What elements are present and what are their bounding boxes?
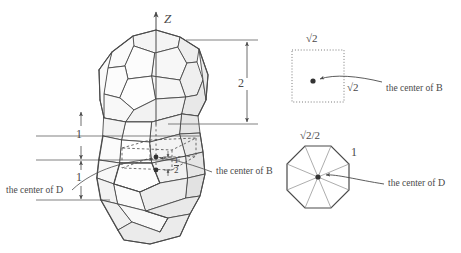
inset-square-right-label: √2	[347, 82, 359, 93]
caption-mid-center-b: the center of B	[216, 166, 273, 177]
diagram-canvas: Z 2 1 1 1 2 the center of D the center o…	[0, 0, 461, 253]
octagon-edge-label: 1	[351, 146, 357, 158]
caption-inset-center-b-symbol: B	[436, 82, 443, 93]
octagon-center-dot	[315, 174, 320, 179]
caption-inset-center-d: the center of D	[388, 178, 445, 189]
dimension-label-left-lower: 1	[76, 171, 82, 183]
caption-left-center-d-text: the center of	[6, 185, 56, 195]
dimension-label-left-upper: 1	[76, 128, 82, 140]
caption-left-center-d: the center of D	[6, 185, 63, 196]
caption-inset-center-b: the center of B	[386, 83, 443, 94]
inset-square-top-label: √2	[306, 33, 318, 44]
caption-inset-center-d-text: the center of	[388, 178, 438, 188]
main-polyhedron	[97, 30, 208, 244]
dimension-label-half: 1 2	[174, 156, 179, 176]
polyhedron-upper-half	[99, 30, 208, 122]
polyhedron-lower-half	[97, 133, 205, 244]
inset-octagon	[287, 146, 384, 208]
center-dot-b	[154, 155, 159, 160]
inset-dotted-square	[292, 50, 382, 102]
half-numerator: 1	[174, 156, 179, 165]
caption-inset-center-d-symbol: D	[438, 177, 446, 188]
half-denominator: 2	[174, 165, 179, 175]
caption-mid-center-b-symbol: B	[266, 165, 273, 176]
dimension-label-right-2: 2	[238, 77, 244, 89]
z-axis-label: Z	[164, 12, 171, 25]
inset-square-center-dot	[310, 78, 315, 83]
diagram-vector-layer	[0, 0, 461, 253]
caption-inset-center-b-text: the center of	[386, 83, 436, 93]
center-dot-d	[154, 168, 159, 173]
caption-left-center-d-symbol: D	[56, 184, 64, 195]
caption-mid-center-b-text: the center of	[216, 166, 266, 176]
octagon-top-label: √2/2	[300, 130, 320, 141]
